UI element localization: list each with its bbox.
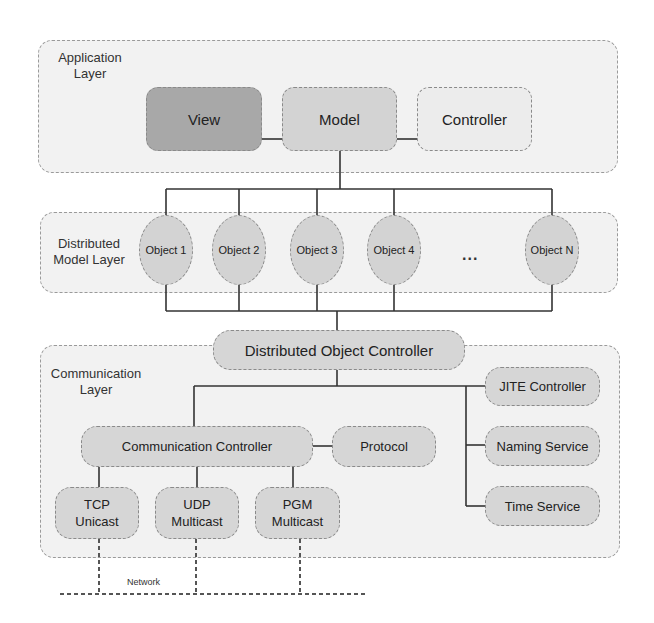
object-4-node: Object 4	[367, 215, 421, 285]
communication-controller-label: Communication Controller	[122, 439, 272, 454]
time-service-node: Time Service	[485, 486, 600, 526]
object-4-label: Object 4	[374, 244, 415, 256]
pgm-multicast-node: PGM Multicast	[255, 487, 340, 539]
model-label: Model	[319, 111, 360, 128]
network-label-text: Network	[127, 577, 160, 587]
object-3-node: Object 3	[290, 215, 344, 285]
object-3-label: Object 3	[297, 244, 338, 256]
ellipsis-indicator: ...	[462, 246, 478, 264]
protocol-node: Protocol	[332, 426, 436, 467]
controller-node: Controller	[417, 87, 532, 151]
time-service-label: Time Service	[505, 499, 580, 514]
ellipsis-text: ...	[462, 246, 478, 263]
object-n-label: Object N	[531, 244, 574, 256]
network-label: Network	[127, 577, 160, 587]
pgm-multicast-line2: Multicast	[272, 513, 323, 530]
tcp-unicast-line1: TCP	[84, 496, 110, 513]
udp-multicast-node: UDP Multicast	[155, 487, 239, 539]
jite-controller-node: JITE Controller	[485, 367, 600, 406]
distributed-object-controller-node: Distributed Object Controller	[213, 330, 465, 370]
object-2-node: Object 2	[212, 215, 266, 285]
controller-label: Controller	[442, 111, 507, 128]
pgm-multicast-line1: PGM	[283, 496, 313, 513]
object-1-node: Object 1	[139, 215, 193, 285]
tcp-unicast-line2: Unicast	[75, 513, 118, 530]
udp-multicast-line1: UDP	[183, 496, 210, 513]
naming-service-node: Naming Service	[485, 426, 600, 466]
view-node: View	[146, 87, 262, 151]
view-label: View	[188, 111, 220, 128]
distributed-object-controller-label: Distributed Object Controller	[245, 342, 433, 359]
udp-multicast-line2: Multicast	[171, 513, 222, 530]
object-1-label: Object 1	[146, 244, 187, 256]
protocol-label: Protocol	[360, 439, 408, 454]
object-2-label: Object 2	[219, 244, 260, 256]
tcp-unicast-node: TCP Unicast	[55, 487, 139, 539]
jite-controller-label: JITE Controller	[499, 379, 586, 394]
model-node: Model	[282, 87, 397, 151]
naming-service-label: Naming Service	[497, 439, 589, 454]
object-n-node: Object N	[525, 215, 579, 285]
communication-controller-node: Communication Controller	[81, 426, 313, 467]
